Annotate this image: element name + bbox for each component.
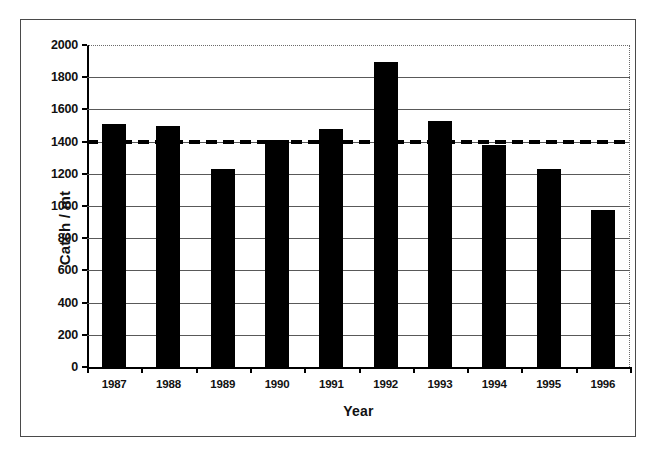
y-tick-mark-1600: [82, 108, 87, 110]
bar-1993[interactable]: [428, 121, 452, 367]
bar-1989[interactable]: [211, 169, 235, 367]
x-tick-label-1989: 1989: [210, 378, 235, 390]
y-tick-label-0: 0: [71, 360, 78, 374]
gridline-1800: [87, 77, 630, 78]
x-tick-mark-10: [630, 367, 632, 373]
y-tick-mark-400: [82, 302, 87, 304]
y-tick-label-1600: 1600: [51, 102, 78, 116]
bar-1991[interactable]: [319, 129, 343, 367]
x-tick-label-1987: 1987: [102, 378, 127, 390]
y-tick-label-800: 800: [58, 231, 78, 245]
x-tick-mark-5: [359, 367, 361, 373]
y-tick-label-200: 200: [58, 328, 78, 342]
chart-figure-frame: Catch / mt 20001800160014001200100080060…: [20, 19, 636, 437]
y-tick-label-2000: 2000: [51, 38, 78, 52]
x-tick-label-1992: 1992: [373, 378, 398, 390]
y-tick-label-1800: 1800: [51, 70, 78, 84]
x-tick-label-1988: 1988: [156, 378, 181, 390]
x-tick-label-1994: 1994: [482, 378, 507, 390]
bar-1995[interactable]: [537, 169, 561, 367]
x-tick-label-1991: 1991: [319, 378, 344, 390]
y-tick-mark-2000: [82, 44, 87, 46]
y-tick-label-400: 400: [58, 296, 78, 310]
gridline-2000: [87, 45, 630, 46]
bar-1994[interactable]: [482, 145, 506, 367]
y-tick-mark-1800: [82, 76, 87, 78]
x-tick-label-1995: 1995: [536, 378, 561, 390]
x-tick-label-1990: 1990: [265, 378, 290, 390]
y-tick-mark-1000: [82, 205, 87, 207]
x-tick-mark-3: [250, 367, 252, 373]
x-tick-label-1993: 1993: [428, 378, 453, 390]
y-tick-label-1400: 1400: [51, 135, 78, 149]
bar-1988[interactable]: [156, 126, 180, 368]
y-tick-label-1000: 1000: [51, 199, 78, 213]
x-tick-mark-8: [521, 367, 523, 373]
bar-1990[interactable]: [265, 140, 289, 367]
x-tick-mark-0: [87, 367, 89, 373]
y-tick-label-600: 600: [58, 263, 78, 277]
y-tick-label-1200: 1200: [51, 167, 78, 181]
gridline-1600: [87, 109, 630, 110]
x-tick-mark-4: [304, 367, 306, 373]
y-tick-mark-1200: [82, 173, 87, 175]
x-tick-mark-1: [141, 367, 143, 373]
bar-1992[interactable]: [374, 62, 398, 367]
plot-area: 2000180016001400120010008006004002000 19…: [87, 45, 630, 367]
x-tick-mark-2: [196, 367, 198, 373]
y-tick-mark-600: [82, 269, 87, 271]
reference-line: [87, 140, 630, 144]
x-tick-mark-6: [413, 367, 415, 373]
y-tick-mark-800: [82, 237, 87, 239]
bar-1987[interactable]: [102, 124, 126, 367]
x-tick-mark-7: [467, 367, 469, 373]
bar-1996[interactable]: [591, 210, 615, 367]
y-tick-mark-200: [82, 334, 87, 336]
x-axis-title: Year: [87, 403, 630, 419]
x-tick-label-1996: 1996: [590, 378, 615, 390]
x-tick-mark-9: [576, 367, 578, 373]
